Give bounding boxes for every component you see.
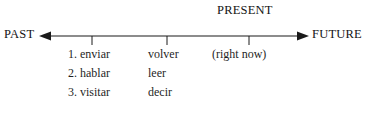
present-verb-item-2: leer [148,67,166,79]
arrow-right-icon [297,31,309,40]
future-endpoint-label: FUTURE [312,28,362,41]
past-verb-item-3: 3. visitar [68,86,110,98]
arrow-left-icon [39,31,51,40]
timeline-diagram: PRESENT PAST FUTURE 1. enviar 2. hablar … [0,0,368,117]
right-now-annotation: (right now) [212,48,266,60]
past-endpoint-label: PAST [4,28,34,41]
present-verb-item-1: volver [148,48,179,60]
past-verb-item-1: 1. enviar [68,48,110,60]
timeline-axis [0,0,368,117]
present-caption: PRESENT [217,4,273,17]
present-verb-item-3: decir [148,86,172,98]
past-verb-item-2: 2. hablar [68,67,110,79]
